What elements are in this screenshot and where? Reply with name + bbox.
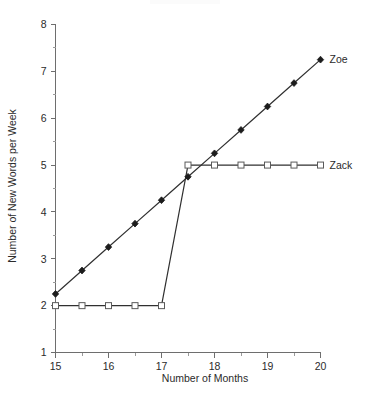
data-point-zack bbox=[238, 162, 244, 168]
data-point-zack bbox=[53, 303, 59, 309]
data-point-zack bbox=[212, 162, 218, 168]
line-chart: 12345678 151617181920 ZoeZack Number of … bbox=[0, 0, 369, 401]
y-tick-label: 5 bbox=[41, 159, 47, 171]
data-point-zack bbox=[159, 303, 165, 309]
x-tick-label: 16 bbox=[103, 360, 115, 372]
data-point-zack bbox=[132, 303, 138, 309]
series-layer: ZoeZack bbox=[52, 53, 353, 308]
data-point-zack bbox=[318, 162, 324, 168]
x-tick-label: 15 bbox=[50, 360, 62, 372]
data-point-zack bbox=[79, 303, 85, 309]
y-tick-label: 8 bbox=[41, 18, 47, 30]
data-point-zack bbox=[185, 162, 191, 168]
x-axis: 151617181920 bbox=[50, 353, 327, 372]
y-tick-label: 1 bbox=[41, 346, 47, 358]
y-tick-label: 3 bbox=[41, 253, 47, 265]
x-tick-label: 17 bbox=[156, 360, 168, 372]
y-axis-title: Number of New Words per Week bbox=[6, 108, 18, 262]
y-tick-label: 2 bbox=[41, 299, 47, 311]
x-axis-title: Number of Months bbox=[162, 372, 248, 384]
top-edge-artifact bbox=[150, 0, 220, 4]
series-line-zack bbox=[56, 165, 321, 306]
y-tick-label: 7 bbox=[41, 65, 47, 77]
x-tick-label: 19 bbox=[262, 360, 274, 372]
data-point-zack bbox=[106, 303, 112, 309]
y-tick-label: 4 bbox=[41, 206, 47, 218]
series-label-zoe: Zoe bbox=[330, 53, 348, 65]
y-tick-label: 6 bbox=[41, 112, 47, 124]
series-label-zack: Zack bbox=[330, 159, 354, 171]
data-point-zack bbox=[291, 162, 297, 168]
chart-canvas: 12345678 151617181920 ZoeZack Number of … bbox=[0, 0, 369, 401]
x-tick-label: 18 bbox=[209, 360, 221, 372]
data-point-zack bbox=[265, 162, 271, 168]
x-tick-label: 20 bbox=[315, 360, 327, 372]
